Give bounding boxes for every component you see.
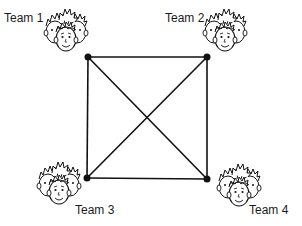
edge-team1-team3 bbox=[87, 57, 88, 178]
graph-edges bbox=[87, 57, 207, 179]
team4-faces-icon bbox=[217, 164, 261, 206]
node-team2 bbox=[204, 54, 211, 61]
node-team4 bbox=[204, 176, 211, 183]
team-graph bbox=[0, 0, 302, 226]
team4-label: Team 4 bbox=[249, 204, 288, 216]
team3-faces-icon bbox=[37, 162, 81, 204]
team3-label: Team 3 bbox=[75, 204, 114, 216]
team1-faces-icon bbox=[44, 9, 88, 51]
node-team1 bbox=[85, 54, 92, 61]
team2-label: Team 2 bbox=[165, 12, 204, 24]
edge-team3-team4 bbox=[87, 178, 207, 179]
team1-label: Team 1 bbox=[4, 12, 43, 24]
team2-faces-icon bbox=[203, 9, 247, 51]
node-team3 bbox=[84, 175, 91, 182]
